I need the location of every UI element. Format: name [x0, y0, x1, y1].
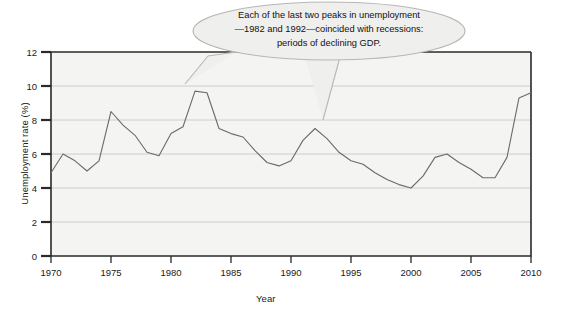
y-tick-label: 6	[32, 149, 37, 160]
unemployment-rate-figure: Unemployment rate (%) Year 024681012 197…	[0, 0, 561, 318]
x-tick-label: 1990	[280, 267, 301, 278]
line-chart: 024681012 197019751980198519901995200020…	[0, 0, 561, 318]
x-tick-label: 2010	[520, 267, 541, 278]
x-axis-ticks: 197019751980198519901995200020052010	[40, 256, 541, 278]
x-tick-label: 2000	[400, 267, 421, 278]
callout-line-2: —1982 and 1992—coincided with recessions…	[235, 24, 424, 34]
x-tick-label: 1980	[160, 267, 181, 278]
callout-line-1: Each of the last two peaks in unemployme…	[238, 10, 420, 20]
y-tick-label: 2	[32, 217, 37, 228]
x-tick-label: 1995	[340, 267, 361, 278]
x-tick-label: 2005	[460, 267, 481, 278]
y-tick-label: 8	[32, 115, 37, 126]
x-tick-label: 1975	[100, 267, 121, 278]
y-tick-label: 12	[26, 47, 37, 58]
y-tick-label: 10	[26, 81, 37, 92]
x-tick-label: 1970	[40, 267, 61, 278]
y-tick-label: 0	[32, 251, 37, 262]
y-tick-label: 4	[32, 183, 37, 194]
callout-line-3: periods of declining GDP.	[277, 38, 381, 48]
y-axis-ticks: 024681012	[26, 47, 51, 262]
x-tick-label: 1985	[220, 267, 241, 278]
